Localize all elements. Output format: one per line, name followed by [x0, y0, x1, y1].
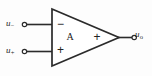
noninverting-input-subscript: + — [11, 49, 15, 56]
inverting-input-terminal — [22, 22, 26, 26]
noninverting-plus-sign: + — [57, 43, 64, 57]
noninverting-input-terminal — [22, 49, 26, 53]
noninverting-input-label: u+ — [6, 46, 14, 57]
inverting-input-symbol: u — [6, 18, 11, 28]
output-label: uo — [135, 30, 143, 41]
noninverting-input-symbol: u — [6, 45, 11, 55]
inverting-input-label: u− — [6, 19, 14, 30]
opamp-figure: − + A + u− u+ uo — [0, 0, 152, 76]
output-symbol: u — [135, 29, 140, 39]
output-plus-sign: + — [93, 30, 100, 44]
inverting-input-subscript: − — [11, 22, 15, 29]
inverting-minus-sign: − — [57, 17, 64, 31]
output-subscript: o — [140, 33, 144, 40]
opamp-schematic: − + A + — [0, 0, 152, 76]
gain-label: A — [66, 31, 74, 42]
